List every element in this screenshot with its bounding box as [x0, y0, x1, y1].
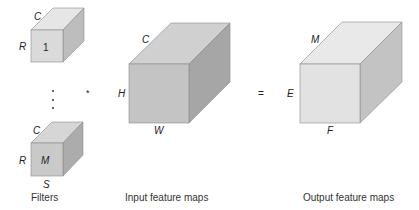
output-width-label: F [327, 125, 334, 136]
input-channel-label: C [142, 34, 150, 45]
input-feature-map-cube: C H W [118, 23, 230, 136]
output-caption: Output feature maps [303, 192, 394, 203]
output-height-label: E [287, 88, 294, 99]
filter-last-width-label: S [43, 179, 50, 190]
input-height-label: H [118, 88, 126, 99]
output-feature-map-cube: M E F [287, 22, 402, 136]
ellipsis-dot [52, 90, 54, 92]
output-channel-label: M [311, 34, 320, 45]
convolve-operator: * [86, 88, 90, 98]
input-caption: Input feature maps [125, 192, 208, 203]
filter-last-index-label: M [41, 155, 50, 166]
filter-ellipsis [52, 90, 54, 109]
filter-first-height-label: R [19, 41, 26, 52]
filter-cube-first: C R 1 [19, 8, 84, 62]
filter-cube-last: C R M S [19, 122, 83, 190]
input-width-label: W [154, 125, 165, 136]
filter-first-index-label: 1 [43, 42, 49, 53]
convolution-diagram: C R 1 C R M S Filters * C H W Input feat… [0, 0, 419, 210]
ellipsis-dot [52, 99, 54, 101]
input-front-face [129, 64, 189, 123]
filters-caption: Filters [31, 192, 58, 203]
output-front-face [300, 64, 360, 123]
ellipsis-dot [52, 107, 54, 109]
equals-operator: = [258, 88, 264, 99]
filter-first-channel-label: C [34, 11, 42, 22]
filter-last-channel-label: C [33, 125, 41, 136]
filter-last-height-label: R [19, 155, 26, 166]
